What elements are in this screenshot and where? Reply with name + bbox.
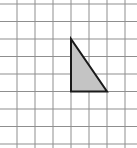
square-grid: [0, 0, 137, 148]
grid-diagram: [0, 0, 137, 148]
